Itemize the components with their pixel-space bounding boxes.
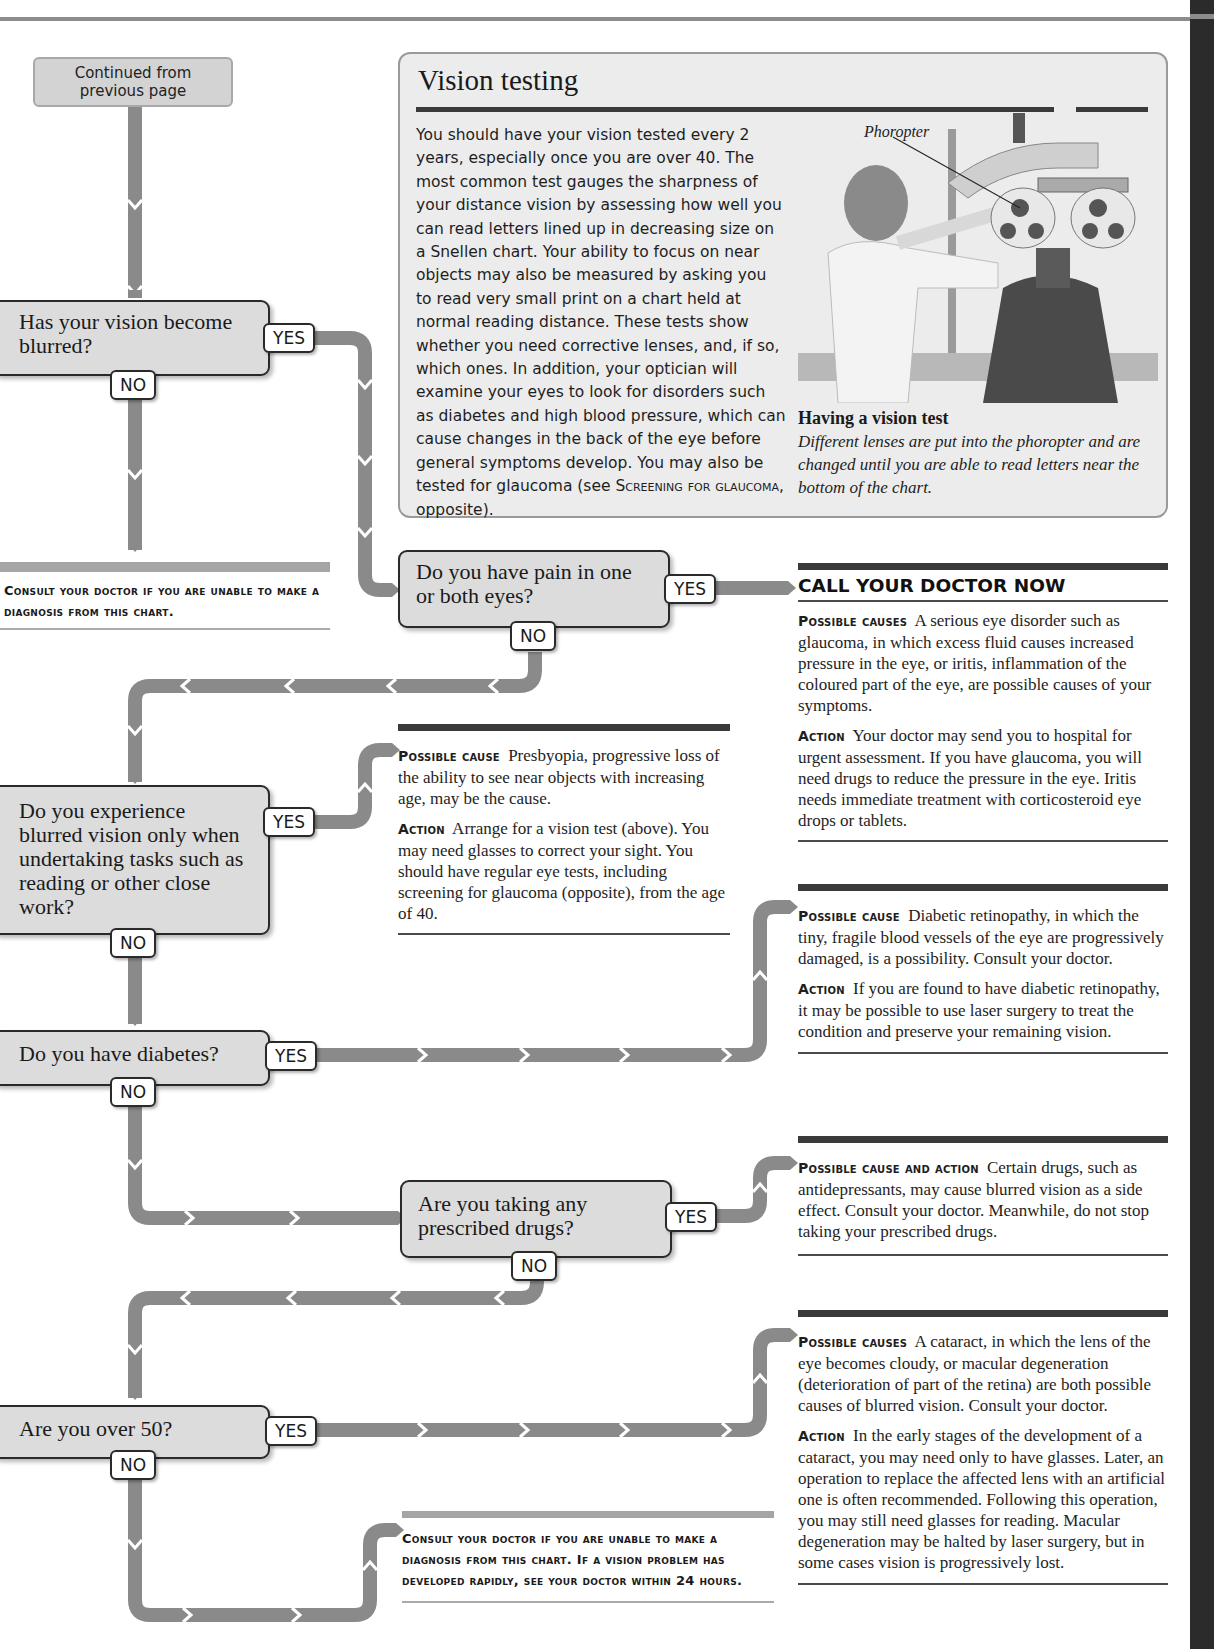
question-text: Do you have diabetes? [19,1041,219,1066]
block-top-rule [398,724,730,731]
drugs-block: Possible cause and action Certain drugs,… [798,1136,1168,1256]
consult-bottom-bottom-rule [402,1601,774,1603]
phoropter-label: Phoropter [864,123,929,141]
action-text: If you are found to have diabetic retino… [798,979,1160,1041]
question-eye-pain: Do you have pain in one or both eyes? [398,550,670,628]
block-bottom-rule [798,1254,1168,1256]
consult-top-rule [0,562,330,572]
connector-q5-no [135,1263,537,1398]
question-text: Are you taking any prescribed drugs? [418,1191,587,1240]
consult-bottom-text: Consult your doctor if you are unable to… [402,1518,774,1601]
q3-no-label: NO [110,928,156,958]
consult-top-text: Consult your doctor if you are unable to… [0,572,330,628]
vision-body-text: You should have your vision tested every… [416,126,786,495]
causes-label: Possible causes [798,1334,907,1350]
connector-q3-yes [312,750,392,822]
diabetes-block: Possible cause Diabetic retinopathy, in … [798,884,1168,1054]
q5-no-label: NO [511,1251,557,1281]
connector-q6-no [135,1463,396,1615]
consult-top-bottom-rule [0,628,330,630]
question-prescribed-drugs: Are you taking any prescribed drugs? [400,1180,672,1258]
call-doctor-now-heading: CALL YOUR DOCTOR NOW [798,570,1168,600]
action-text: In the early stages of the development o… [798,1426,1165,1572]
over-50-block: Possible causes A cataract, in which the… [798,1310,1168,1585]
causes-label: Possible causes [798,613,907,629]
q1-yes-label: YES [263,323,315,353]
question-text: Has your vision become blurred? [19,309,232,358]
photo-caption-title: Having a vision test [798,408,949,429]
presbyopia-cause: Possible cause Presbyopia, progressive l… [398,745,730,809]
question-text: Are you over 50? [19,1416,172,1441]
block-bottom-rule [798,1583,1168,1585]
over-50-action: Action In the early stages of the develo… [798,1425,1168,1573]
heading-rule [798,600,1168,602]
action-label: Action [398,821,445,837]
connector-q1-yes [310,338,392,590]
start-box-label: Continued from previous page [58,64,208,100]
action-label: Action [798,981,845,997]
block-top-rule [798,884,1168,891]
consult-top-block: Consult your doctor if you are unable to… [0,562,330,630]
connector-q4-no [135,1096,398,1218]
question-text: Do you experience blurred vision only wh… [19,798,243,919]
q4-yes-label: YES [265,1041,317,1071]
action-text: Arrange for a vision test (above). You m… [398,819,725,923]
diabetes-cause: Possible cause Diabetic retinopathy, in … [798,905,1168,969]
block-top-rule [798,1136,1168,1143]
question-close-work: Do you experience blurred vision only wh… [0,785,270,935]
block-bottom-rule [798,840,1168,842]
pain-causes: Possible causes A serious eye disorder s… [798,610,1168,716]
block-bottom-rule [398,933,730,935]
vision-testing-body: You should have your vision tested every… [416,124,786,522]
pain-action: Action Your doctor may send you to hospi… [798,725,1168,831]
q4-no-label: NO [110,1077,156,1107]
connector-q5-yes [716,1163,790,1216]
consult-bottom-block: Consult your doctor if you are unable to… [402,1511,774,1603]
start-box: Continued from previous page [33,57,233,107]
q1-no-label: NO [110,370,156,400]
action-label: Action [798,728,845,744]
diabetes-action: Action If you are found to have diabetic… [798,978,1168,1042]
cause-action-label: Possible cause and action [798,1160,979,1176]
question-vision-blurred: Has your vision become blurred? [0,300,270,376]
q2-no-label: NO [510,621,556,651]
q6-no-label: NO [110,1450,156,1480]
vision-testing-title: Vision testing [418,64,578,97]
vision-body-reference: Screening for glaucoma [615,477,779,495]
q5-yes-label: YES [665,1202,717,1232]
photo-caption-body: Different lenses are put into the phorop… [798,430,1158,499]
vision-test-photo [798,113,1158,403]
question-text: Do you have pain in one or both eyes? [416,559,632,608]
consult-bottom-rule [402,1511,774,1518]
vision-title-rule [416,107,1054,112]
cause-label: Possible cause [398,748,500,764]
block-top-rule [798,563,1168,570]
call-doctor-now-block: CALL YOUR DOCTOR NOW Possible causes A s… [798,563,1168,842]
action-text: Your doctor may send you to hospital for… [798,726,1142,830]
action-label: Action [798,1428,845,1444]
q6-yes-label: YES [265,1416,317,1446]
q2-yes-label: YES [664,574,716,604]
over-50-causes: Possible causes A cataract, in which the… [798,1331,1168,1416]
block-bottom-rule [798,1052,1168,1054]
q3-yes-label: YES [263,807,315,837]
vision-title-rule-right [1076,107,1148,112]
drugs-cause-action: Possible cause and action Certain drugs,… [798,1157,1168,1242]
presbyopia-action: Action Arrange for a vision test (above)… [398,818,730,924]
block-top-rule [798,1310,1168,1317]
cause-label: Possible cause [798,908,900,924]
presbyopia-block: Possible cause Presbyopia, progressive l… [398,724,730,935]
connector-q6-yes [316,1335,790,1430]
